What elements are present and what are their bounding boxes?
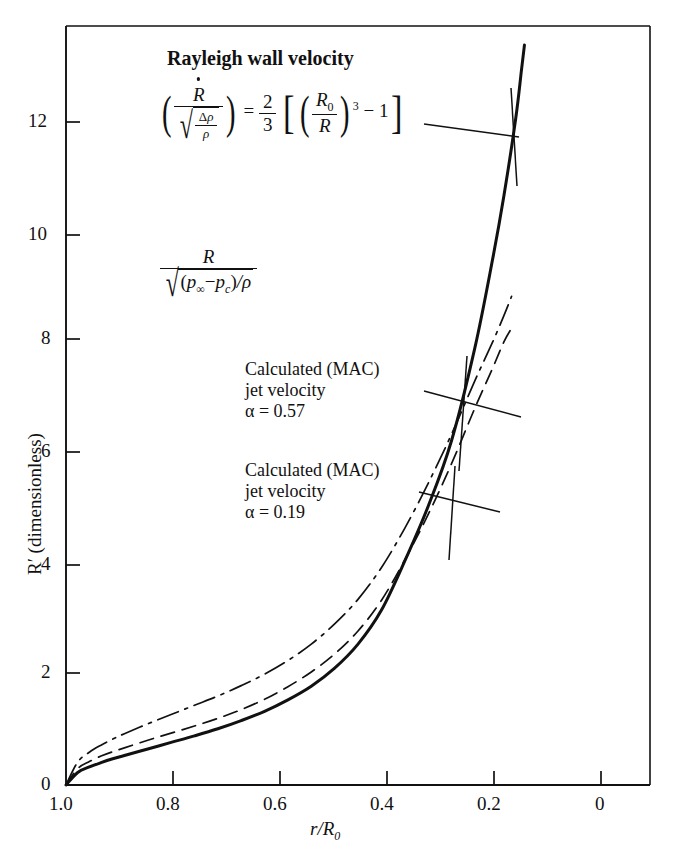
y-tick-12: 12 — [28, 110, 47, 132]
x-axis-title-sub0: 0 — [334, 829, 340, 843]
R0-over-R: R0R — [312, 89, 338, 138]
paren-open-2: ( — [299, 95, 309, 132]
rayleigh-sqrt-den: √Δρρ — [174, 107, 223, 142]
radical-icon-2: √(p∞−pc)/ρ — [164, 269, 253, 297]
x-tick-0-6: 0.6 — [263, 793, 287, 815]
equals-sign: = — [244, 100, 255, 121]
paren-open: ( — [162, 95, 172, 132]
mac-019-line2: jet velocity — [245, 481, 379, 502]
overdot-icon — [197, 77, 201, 81]
x-axis-title-R: R — [323, 818, 335, 839]
mac-057-alpha-value: 0.57 — [274, 401, 306, 421]
x-tick-0: 0 — [595, 793, 605, 815]
y-tick-0: 0 — [41, 773, 51, 795]
paren-close-2: ) — [340, 95, 350, 132]
rayleigh-headline: Rayleigh wall velocity — [167, 47, 354, 70]
annotation-mac-alpha-019: Calculated (MAC) jet velocity α = 0.19 — [245, 460, 379, 524]
normalizer-denominator: √(p∞−pc)/ρ — [160, 269, 257, 297]
paren-close: ) — [226, 95, 236, 132]
mac-057-line3: α = 0.57 — [245, 401, 379, 422]
x-tick-0-4: 0.4 — [370, 793, 394, 815]
leader-tick-mac-019 — [449, 466, 455, 560]
y-tick-2: 2 — [41, 661, 51, 683]
x-tick-0-8: 0.8 — [156, 793, 180, 815]
figure-canvas: 12 10 8 6 4 2 0 1.0 0.8 0.6 0.4 0.2 0 r/… — [0, 0, 673, 848]
x-tick-0-2: 0.2 — [477, 793, 501, 815]
delta-rho-over-rho: Δρρ — [195, 109, 218, 142]
mac-019-line3: α = 0.19 — [245, 502, 379, 523]
x-axis-title: r/R0 — [310, 818, 340, 844]
normalizer-equation: R √(p∞−pc)/ρ — [160, 246, 257, 297]
bracket-close: ] — [390, 95, 401, 132]
x-tick-1-0: 1.0 — [49, 793, 73, 815]
leader-rayleigh — [424, 124, 519, 137]
one: 1 — [379, 100, 389, 121]
mac-057-line2: jet velocity — [245, 380, 379, 401]
x-axis-ticks — [173, 771, 601, 785]
mac-057-line1: Calculated (MAC) — [245, 359, 379, 380]
y-tick-10: 10 — [28, 223, 47, 245]
normalizer-fraction: R √(p∞−pc)/ρ — [160, 246, 257, 297]
bracket-open: [ — [283, 95, 294, 132]
annotation-mac-alpha-057: Calculated (MAC) jet velocity α = 0.57 — [245, 359, 379, 423]
rayleigh-lhs-fraction: R√Δρρ — [174, 84, 223, 142]
mac-019-line1: Calculated (MAC) — [245, 460, 379, 481]
exponent-3: 3 — [353, 99, 359, 113]
two-thirds: 23 — [259, 91, 277, 136]
y-axis-ticks — [66, 122, 80, 673]
mac-019-alpha-value: 0.19 — [274, 502, 306, 522]
radical-icon: √Δρρ — [178, 107, 219, 142]
y-tick-8: 8 — [41, 327, 51, 349]
rayleigh-equation: (R√Δρρ) = 23 [(R0R)3 − 1] — [159, 84, 404, 142]
y-axis-title: R′ (dimensionless) — [24, 433, 46, 575]
minus-sign: − — [364, 100, 375, 121]
